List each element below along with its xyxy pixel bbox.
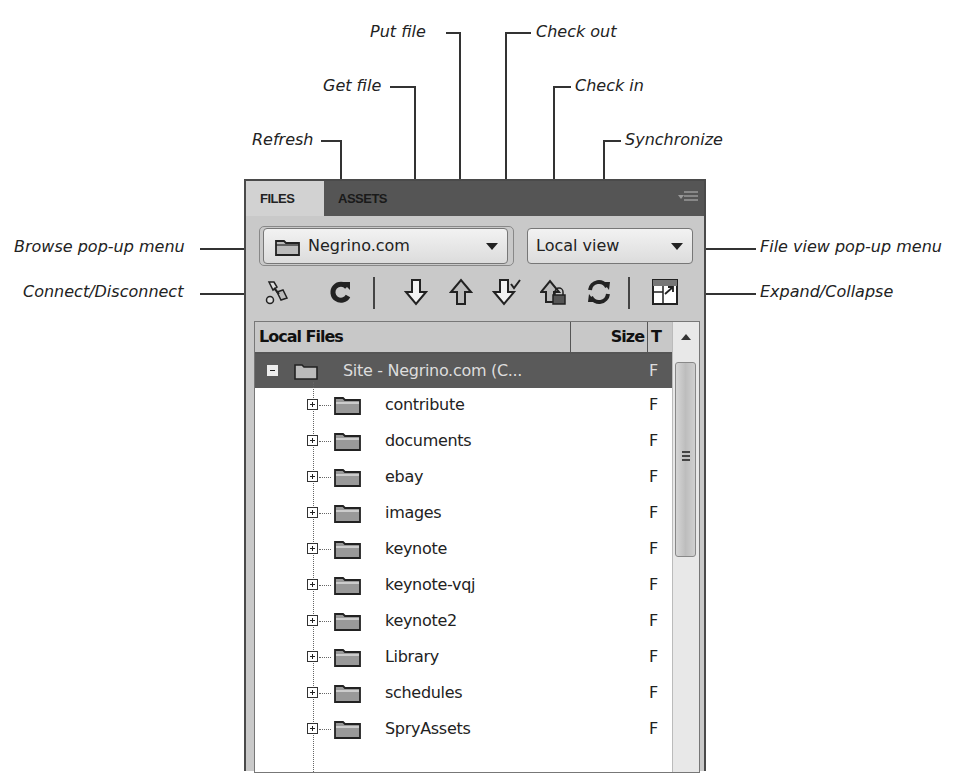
local-files-table: Local Files Size T Site - Negrino.com (C… <box>254 321 700 773</box>
row-name: schedules <box>385 676 462 710</box>
expand-plus-icon[interactable] <box>307 579 318 590</box>
row-type: F <box>649 424 658 458</box>
table-row[interactable]: Library F <box>255 640 675 674</box>
callout-put-file: Put file <box>370 22 426 42</box>
row-name: keynote2 <box>385 604 457 638</box>
expand-plus-icon[interactable] <box>307 435 318 446</box>
expand-plus-icon[interactable] <box>307 687 318 698</box>
scrollbar-thumb[interactable] <box>675 362 696 557</box>
expand-plus-icon[interactable] <box>307 651 318 662</box>
callout-get-file: Get file <box>323 76 381 96</box>
table-row[interactable]: SpryAssets F <box>255 712 675 746</box>
callout-expand-collapse: Expand/Collapse <box>760 282 893 302</box>
table-header: Local Files Size T <box>255 322 675 354</box>
refresh-icon[interactable] <box>326 277 356 307</box>
callout-browse-menu: Browse pop-up menu <box>14 237 185 257</box>
row-name: contribute <box>385 388 464 422</box>
arrow-up-lock-icon[interactable] <box>539 277 569 307</box>
table-row[interactable]: keynote F <box>255 532 675 566</box>
row-type: F <box>649 460 658 494</box>
expand-plus-icon[interactable] <box>307 723 318 734</box>
folder-icon <box>333 502 363 524</box>
table-row-site-root[interactable]: Site - Negrino.com (C... F <box>255 354 675 388</box>
site-root-name: Site - Negrino.com (C... <box>343 354 522 388</box>
view-value: Local view <box>536 236 619 255</box>
arrow-down-check-icon[interactable] <box>492 277 522 307</box>
callout-connect: Connect/Disconnect <box>23 282 183 302</box>
arrow-down-icon[interactable] <box>401 277 431 307</box>
folder-icon <box>333 466 363 488</box>
row-name: Library <box>385 640 439 674</box>
table-row[interactable]: documents F <box>255 424 675 458</box>
row-type: F <box>649 712 658 746</box>
expand-plus-icon[interactable] <box>307 615 318 626</box>
folder-icon <box>293 361 319 381</box>
folder-icon <box>333 682 363 704</box>
row-type: F <box>649 604 658 638</box>
row-name: images <box>385 496 441 530</box>
folder-icon <box>333 538 363 560</box>
expand-plus-icon[interactable] <box>307 471 318 482</box>
table-row[interactable]: keynote-vqj F <box>255 568 675 602</box>
table-row[interactable]: contribute F <box>255 388 675 422</box>
panel-tab-bar: FILES ASSETS <box>246 181 704 216</box>
row-name: ebay <box>385 460 423 494</box>
arrow-up-icon[interactable] <box>446 277 476 307</box>
panel-options-icon[interactable] <box>678 191 698 205</box>
row-type: F <box>649 388 658 422</box>
callout-synchronize: Synchronize <box>625 130 723 150</box>
files-toolbar <box>246 273 704 313</box>
plug-icon[interactable] <box>262 277 292 307</box>
expand-plus-icon[interactable] <box>307 399 318 410</box>
browse-popup-frame: Negrino.com <box>259 226 514 266</box>
row-name: SpryAssets <box>385 712 470 746</box>
tab-files[interactable]: FILES <box>246 181 324 216</box>
callout-check-in: Check in <box>575 76 644 96</box>
column-size[interactable]: Size <box>571 322 648 352</box>
site-root-type: F <box>649 354 658 388</box>
row-name: keynote-vqj <box>385 568 475 602</box>
scroll-up-icon[interactable] <box>681 334 691 340</box>
row-type: F <box>649 676 658 710</box>
column-local-files[interactable]: Local Files <box>255 322 571 352</box>
folder-icon <box>333 574 363 596</box>
collapse-icon[interactable] <box>267 365 278 376</box>
file-view-popup-menu[interactable]: Local view <box>527 228 693 264</box>
grip-icon <box>682 451 690 463</box>
folder-icon <box>333 646 363 668</box>
folder-icon <box>333 718 363 740</box>
sync-icon[interactable] <box>584 277 614 307</box>
table-row[interactable]: keynote2 F <box>255 604 675 638</box>
chevron-down-icon <box>671 243 683 250</box>
files-panel: FILES ASSETS Negrino.com Local view <box>244 179 706 771</box>
vertical-scrollbar[interactable] <box>672 322 699 773</box>
callout-refresh: Refresh <box>252 130 314 150</box>
folder-icon <box>333 610 363 632</box>
expand-plus-icon[interactable] <box>307 507 318 518</box>
table-row[interactable]: images F <box>255 496 675 530</box>
row-name: keynote <box>385 532 447 566</box>
expand-plus-icon[interactable] <box>307 543 318 554</box>
expand-icon[interactable] <box>650 277 680 307</box>
browse-popup-menu[interactable]: Negrino.com <box>263 228 508 264</box>
column-type[interactable]: T <box>648 322 675 352</box>
table-row[interactable]: schedules F <box>255 676 675 710</box>
row-type: F <box>649 532 658 566</box>
folder-icon <box>333 430 363 452</box>
chevron-down-icon <box>486 243 498 250</box>
table-row[interactable]: ebay F <box>255 460 675 494</box>
tab-assets[interactable]: ASSETS <box>326 181 387 216</box>
folder-icon <box>274 237 302 257</box>
row-type: F <box>649 568 658 602</box>
callout-file-view-menu: File view pop-up menu <box>760 237 942 257</box>
row-type: F <box>649 496 658 530</box>
folder-icon <box>333 394 363 416</box>
row-name: documents <box>385 424 471 458</box>
browse-value: Negrino.com <box>308 236 410 255</box>
callout-check-out: Check out <box>536 22 617 42</box>
row-type: F <box>649 640 658 674</box>
